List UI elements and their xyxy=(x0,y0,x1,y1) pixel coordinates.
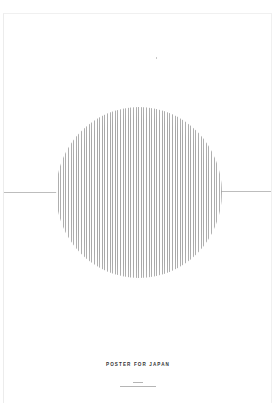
caption-line-1-text xyxy=(133,382,143,383)
caption-line-1 xyxy=(0,381,276,384)
horizon-line-left xyxy=(4,192,57,193)
striped-sun-circle xyxy=(56,107,222,278)
caption-line-2 xyxy=(0,385,276,388)
speck-mark xyxy=(156,57,157,59)
poster-title: POSTER FOR JAPAN xyxy=(0,362,276,367)
horizon-line-right xyxy=(221,191,271,192)
caption-line-2-text xyxy=(120,386,156,387)
circle-edge-fade xyxy=(56,107,222,278)
